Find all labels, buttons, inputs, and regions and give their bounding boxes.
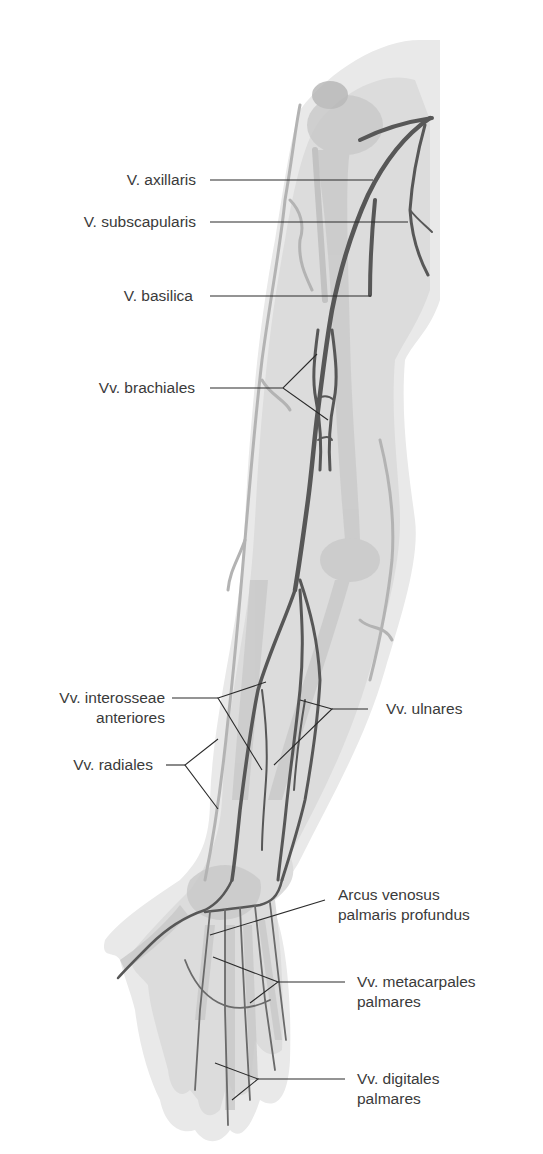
label-vv-radiales: Vv. radiales (73, 755, 153, 775)
label-arcus-venosus-palmaris-profundus: Arcus venosus palmaris profundus (338, 885, 470, 925)
label-v-subscapularis: V. subscapularis (84, 212, 196, 232)
label-vv-metacarpales-palmares: Vv. metacarpales palmares (357, 972, 476, 1012)
label-v-axillaris: V. axillaris (127, 170, 196, 190)
label-v-basilica: V. basilica (124, 286, 193, 306)
label-vv-interosseae-anteriores: Vv. interosseae anteriores (59, 688, 165, 728)
label-vv-brachiales: Vv. brachiales (99, 378, 195, 398)
label-vv-ulnares: Vv. ulnares (386, 699, 462, 719)
label-vv-digitales-palmares: Vv. digitales palmares (357, 1069, 439, 1109)
